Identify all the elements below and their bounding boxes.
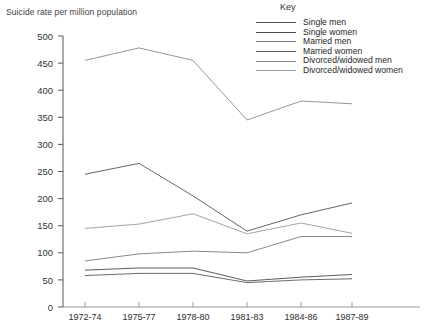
x-tick-label: 1978-80: [176, 312, 209, 322]
x-tick-label: 1981-83: [230, 312, 263, 322]
chart-container: Suicide rate per million population Key …: [0, 0, 432, 333]
y-axis-ticks: 050100150200250300350400450500: [37, 31, 63, 313]
y-tick-label: 350: [37, 112, 53, 123]
y-tick-label: 150: [37, 220, 53, 231]
series-line-divorced-widowed-men: [85, 48, 352, 120]
series-line-single-women: [85, 268, 352, 281]
x-tick-label: 1975-77: [122, 312, 155, 322]
y-tick-label: 50: [42, 275, 53, 286]
x-tick-label: 1972-74: [68, 312, 101, 322]
y-tick-label: 200: [37, 193, 53, 204]
data-series-group: [85, 48, 352, 283]
x-axis-ticks: 1972-741975-771978-801981-831984-861987-…: [68, 302, 368, 322]
series-line-married-men: [85, 237, 352, 261]
y-tick-label: 250: [37, 166, 53, 177]
series-line-single-men: [85, 163, 352, 231]
series-line-married-women: [85, 273, 352, 282]
y-axis-group: 050100150200250300350400450500: [37, 31, 63, 313]
series-line-divorced-widowed-women: [85, 214, 352, 234]
y-tick-label: 0: [48, 302, 53, 313]
y-tick-label: 400: [37, 85, 53, 96]
y-tick-label: 100: [37, 247, 53, 258]
y-tick-label: 450: [37, 58, 53, 69]
x-tick-label: 1984-86: [284, 312, 317, 322]
x-tick-label: 1987-89: [335, 312, 368, 322]
line-chart-plot: 050100150200250300350400450500 1972-7419…: [0, 0, 432, 333]
y-tick-label: 500: [37, 31, 53, 42]
x-axis-group: 1972-741975-771978-801981-831984-861987-…: [63, 302, 420, 322]
y-tick-label: 300: [37, 139, 53, 150]
